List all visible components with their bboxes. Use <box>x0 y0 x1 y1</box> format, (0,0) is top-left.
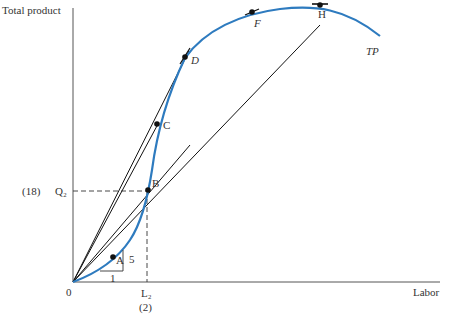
y-axis-label: Total product <box>2 4 61 16</box>
point-h-label: H <box>318 8 326 20</box>
tp-curve <box>73 8 380 282</box>
point-f-label: F <box>253 17 261 29</box>
point-d-label: D <box>190 54 199 66</box>
total-product-diagram: Total product Labor TP 0 (18) Q₂ L₂ (2) … <box>0 0 449 324</box>
q2-value-label: (18) <box>22 185 41 198</box>
origin-label: 0 <box>66 286 72 298</box>
l2-label: L₂ <box>141 287 152 299</box>
slope-rise-label: 5 <box>129 253 135 265</box>
q2-label: Q₂ <box>55 185 67 197</box>
curve-label: TP <box>366 45 379 57</box>
point-d <box>182 54 188 60</box>
point-h <box>317 2 323 8</box>
point-c-label: C <box>163 119 170 131</box>
x-axis-label: Labor <box>413 286 440 298</box>
slope-run-label: 1 <box>110 272 116 284</box>
point-f <box>249 9 255 15</box>
point-b <box>145 187 151 193</box>
point-a <box>110 254 116 260</box>
point-c <box>154 121 160 127</box>
l2-value-label: (2) <box>139 301 152 314</box>
point-a-label: A <box>116 254 124 266</box>
point-b-label: B <box>152 177 159 189</box>
points <box>110 2 323 260</box>
